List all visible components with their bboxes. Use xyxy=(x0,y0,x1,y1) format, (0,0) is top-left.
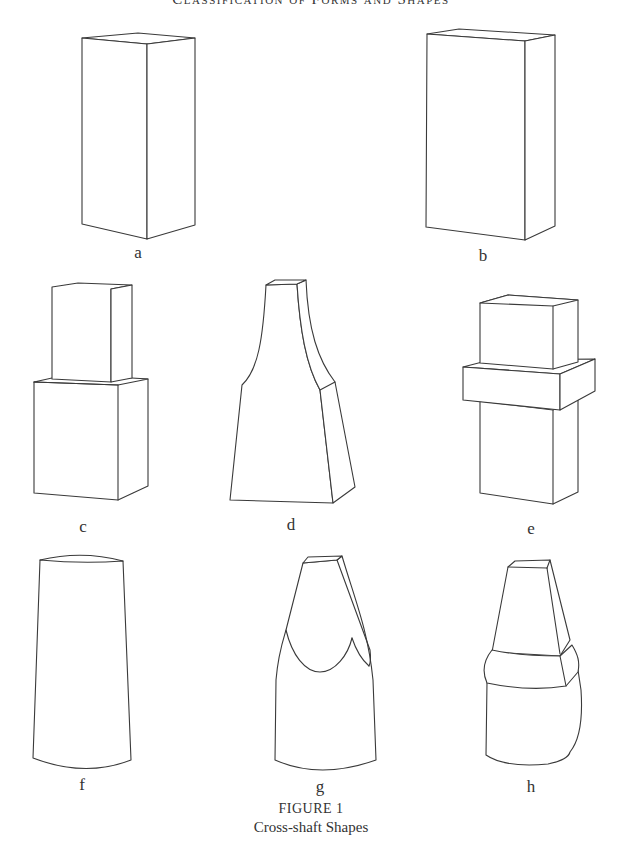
shape-label-d: d xyxy=(287,516,296,533)
shape-label-a: a xyxy=(134,244,142,261)
shape-label-h: h xyxy=(527,778,536,795)
shape-label-g: g xyxy=(316,778,325,795)
shape-d xyxy=(230,280,355,503)
figure-number: FIGURE 1 xyxy=(0,801,622,817)
figure-drawing xyxy=(0,0,622,860)
shape-label-e: e xyxy=(527,520,535,537)
shape-label-b: b xyxy=(479,247,488,264)
shape-b xyxy=(426,29,555,240)
shape-label-c: c xyxy=(79,518,87,535)
shape-h xyxy=(484,560,581,765)
shape-c xyxy=(34,283,148,500)
shape-g xyxy=(275,556,376,770)
shape-a xyxy=(82,33,195,239)
shape-label-f: f xyxy=(79,776,85,793)
shape-e xyxy=(463,295,595,504)
figure-caption: Cross-shaft Shapes xyxy=(0,819,622,836)
shape-f xyxy=(33,555,131,768)
